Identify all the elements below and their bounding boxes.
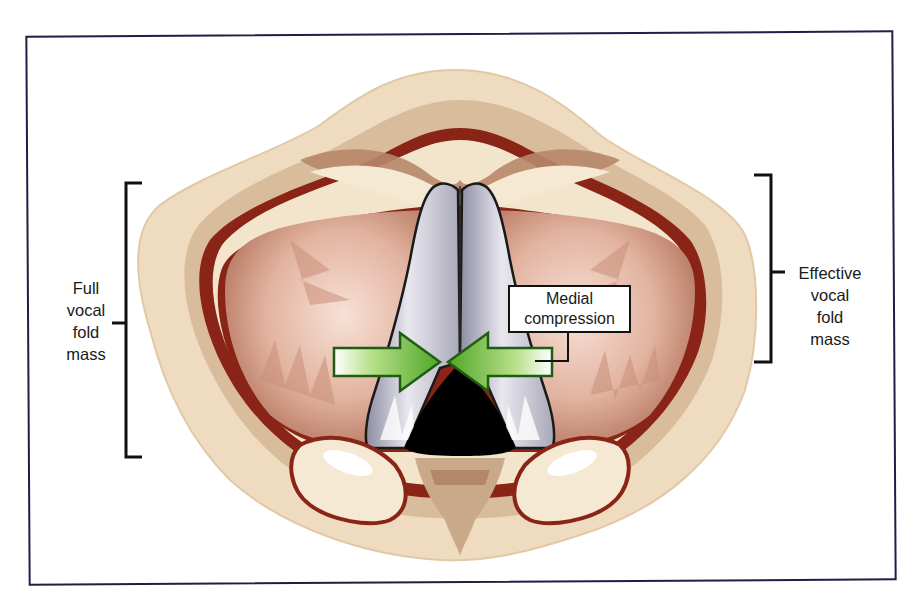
- label-line: mass: [788, 328, 872, 350]
- label-line: fold: [58, 321, 114, 343]
- callout-medial-compression: Medial compression: [508, 285, 631, 333]
- label-full-vocal-fold-mass: Full vocal fold mass: [58, 277, 114, 365]
- callout-line: Medial: [510, 289, 629, 309]
- label-line: mass: [58, 343, 114, 365]
- larynx-illustration: [0, 0, 921, 612]
- right-bracket: [754, 175, 785, 362]
- label-line: Full: [58, 277, 114, 299]
- label-line: vocal: [788, 284, 872, 306]
- label-line: fold: [788, 306, 872, 328]
- label-effective-vocal-fold-mass: Effective vocal fold mass: [788, 262, 872, 350]
- left-bracket: [112, 183, 142, 457]
- callout-line: compression: [510, 309, 629, 329]
- label-line: vocal: [58, 299, 114, 321]
- label-line: Effective: [788, 262, 872, 284]
